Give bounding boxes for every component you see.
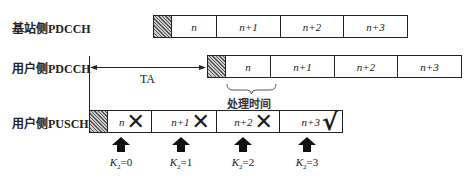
up-arrow-icon: [112, 137, 316, 152]
k2-label: K2=2: [232, 156, 255, 171]
k2-label: K2=3: [296, 156, 319, 171]
k2-label: K2=1: [170, 156, 193, 171]
k2-arrows: [0, 0, 473, 177]
k2-label: K2=0: [110, 156, 133, 171]
